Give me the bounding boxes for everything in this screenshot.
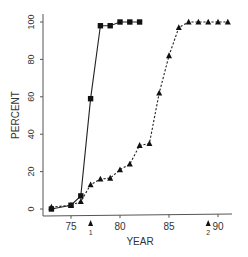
triangle-marker [137, 142, 143, 148]
triangle-marker [225, 19, 231, 25]
y-tick-label: 40 [26, 129, 36, 139]
triangle-marker [88, 181, 94, 187]
series-group [48, 19, 230, 212]
arrow-label: 2 [206, 229, 210, 236]
y-tick-label: 0 [26, 206, 36, 211]
y-axis-label: PERCENT [10, 91, 21, 139]
triangle-marker [176, 24, 182, 30]
line-chart: 020406080100 75808590 12 PERCENT YEAR [0, 0, 248, 257]
series-2-line [51, 22, 227, 207]
y-tick-label: 20 [26, 167, 36, 177]
chart-container: 020406080100 75808590 12 PERCENT YEAR [0, 0, 248, 257]
x-tick-label: 75 [65, 221, 77, 232]
y-tick-label: 80 [26, 54, 36, 64]
arrow-up-icon [88, 220, 93, 226]
arrow-up-icon [206, 220, 211, 226]
triangle-marker [186, 19, 192, 25]
triangle-marker [156, 90, 162, 96]
triangle-marker [166, 52, 172, 58]
square-marker [117, 19, 122, 24]
triangle-marker [97, 176, 103, 182]
x-axis-line [43, 214, 232, 216]
square-marker [127, 19, 132, 24]
square-marker [137, 19, 142, 24]
triangle-marker [205, 19, 211, 25]
square-marker [108, 23, 113, 28]
series-1-line [51, 22, 139, 209]
y-tick-label: 60 [26, 92, 36, 102]
x-tick-label: 90 [212, 221, 224, 232]
arrow-label: 1 [89, 229, 93, 236]
triangle-marker [146, 140, 152, 146]
x-tick-label: 85 [163, 221, 175, 232]
triangle-marker [78, 198, 84, 204]
y-ticks: 020406080100 [26, 14, 43, 211]
annotations: 12 [88, 220, 211, 236]
triangle-marker [117, 166, 123, 172]
triangle-marker [127, 161, 133, 167]
square-marker [98, 23, 103, 28]
y-tick-label: 100 [26, 14, 36, 29]
x-tick-label: 80 [114, 221, 126, 232]
axes [43, 14, 232, 216]
x-axis-label: YEAR [126, 236, 153, 247]
square-marker [88, 96, 93, 101]
square-marker [78, 193, 83, 198]
